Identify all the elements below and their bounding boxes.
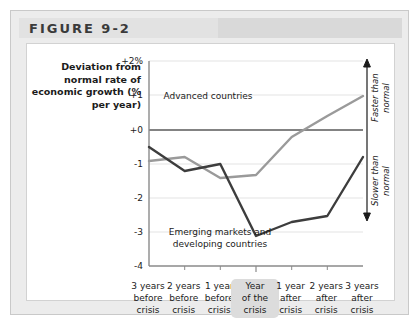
direction-label-slower: Slower than normal	[370, 142, 391, 220]
chart-card: Deviation from normal rate of economic g…	[26, 43, 395, 301]
figure-title: FIGURE 9-2	[29, 21, 131, 36]
x-tick-marks	[185, 266, 328, 272]
x-tick-label-6: 3 years after crisis	[338, 279, 386, 318]
series-line-emerging	[149, 147, 363, 236]
x-axis-labels: 3 years before crisis 2 years before cri…	[26, 279, 395, 319]
series-label-emerging: Emerging markets and developing countrie…	[145, 227, 295, 250]
series-line-advanced	[149, 96, 363, 178]
series-label-advanced: Advanced countries	[160, 91, 256, 103]
figure-title-bar: FIGURE 9-2	[19, 18, 402, 38]
figure-container: FIGURE 9-2 Deviation from normal rate of…	[10, 10, 409, 315]
chart-plot	[27, 44, 396, 302]
gridlines	[149, 61, 363, 232]
direction-label-faster: Faster than normal	[370, 61, 391, 135]
